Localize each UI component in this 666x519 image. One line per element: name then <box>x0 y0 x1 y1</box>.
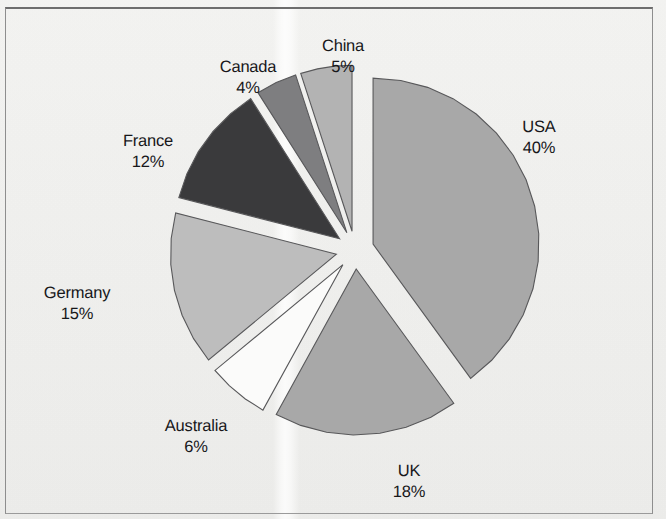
pie-label-australia: Australia6% <box>165 416 227 459</box>
pie-label-france: France12% <box>123 131 173 174</box>
pie-label-name: UK <box>393 461 425 482</box>
pie-label-percent: 6% <box>165 437 227 458</box>
pie-label-percent: 12% <box>123 152 173 173</box>
pie-label-uk: UK18% <box>393 461 425 504</box>
pie-label-name: USA <box>522 117 555 138</box>
pie-label-germany: Germany15% <box>44 283 110 326</box>
pie-label-name: Australia <box>165 416 227 437</box>
pie-label-percent: 18% <box>393 482 425 503</box>
pie-label-percent: 40% <box>522 138 555 159</box>
pie-label-china: China5% <box>322 36 364 79</box>
pie-label-percent: 15% <box>44 304 110 325</box>
pie-slices-group <box>171 65 539 435</box>
pie-chart-page: USA40%UK18%Australia6%Germany15%France12… <box>0 0 666 519</box>
pie-label-name: Canada <box>220 57 277 78</box>
pie-label-name: France <box>123 131 173 152</box>
pie-label-percent: 4% <box>220 78 277 99</box>
pie-label-canada: Canada4% <box>220 57 277 100</box>
pie-label-name: China <box>322 36 364 57</box>
pie-label-usa: USA40% <box>522 117 555 160</box>
pie-label-percent: 5% <box>322 57 364 78</box>
pie-label-name: Germany <box>44 283 110 304</box>
